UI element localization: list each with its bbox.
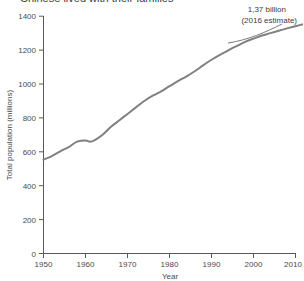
y-tick-label-1400: 1400 xyxy=(18,12,36,21)
annotation-source-label: (2016 estimate) xyxy=(241,16,297,25)
x-tick-label-1950: 1950 xyxy=(35,260,53,269)
x-tick-label-1980: 1980 xyxy=(161,260,179,269)
y-tick-label-800: 800 xyxy=(23,114,37,123)
x-axis-ticks xyxy=(44,254,296,259)
y-axis-title: Total population (millions) xyxy=(5,90,14,181)
x-tick-label-1990: 1990 xyxy=(203,260,221,269)
y-axis-tick-labels: 0 200 400 600 800 1000 1200 1400 xyxy=(18,12,36,258)
x-axis-tick-labels: 1950 1960 1970 1980 1990 2000 2010 xyxy=(35,260,303,269)
population-chart-figure: Chinese lived with their families 0 200 … xyxy=(0,0,303,281)
x-tick-label-1970: 1970 xyxy=(119,260,137,269)
y-tick-label-1000: 1000 xyxy=(18,80,36,89)
y-tick-label-1200: 1200 xyxy=(18,46,36,55)
y-tick-label-600: 600 xyxy=(23,148,37,157)
x-tick-label-1960: 1960 xyxy=(77,260,95,269)
y-tick-label-400: 400 xyxy=(23,182,37,191)
annotation-callout: 1,37 billion (2016 estimate) xyxy=(241,5,297,25)
annotation-leader-line xyxy=(228,24,282,43)
x-tick-label-2010: 2010 xyxy=(284,260,302,269)
y-axis-ticks xyxy=(39,16,44,253)
chart-canvas: 0 200 400 600 800 1000 1200 1400 1950 19… xyxy=(0,0,303,281)
y-tick-label-0: 0 xyxy=(32,250,37,259)
x-axis-title: Year xyxy=(162,272,179,281)
population-line-series xyxy=(44,24,304,160)
y-tick-label-200: 200 xyxy=(23,216,37,225)
axis-lines xyxy=(44,16,297,254)
x-tick-label-2000: 2000 xyxy=(245,260,263,269)
annotation-value-label: 1,37 billion xyxy=(248,5,286,14)
